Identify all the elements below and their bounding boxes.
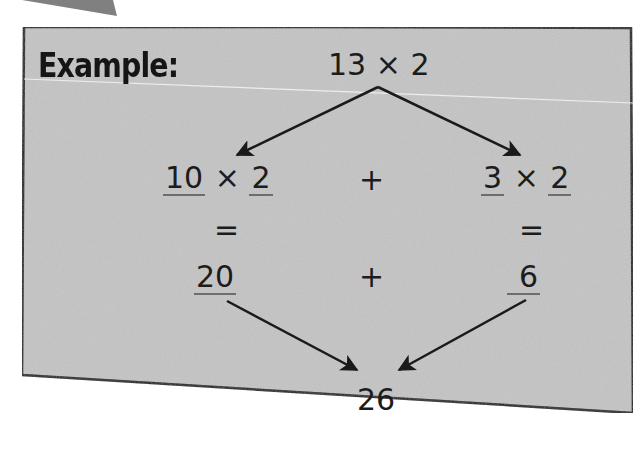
right-product: 6 [507, 262, 540, 295]
right-equals-sign: = [519, 215, 544, 245]
ones-value: 3 [481, 163, 504, 196]
left-equals-sign: = [214, 215, 239, 245]
example-card: Example: 13 × 2 10 × 2 + 3 × 2 = = 20 + … [0, 0, 633, 458]
example-title: Example: [38, 46, 178, 85]
left-product: 20 [194, 262, 236, 295]
diagram-canvas: Example: 13 × 2 10 × 2 + 3 × 2 = = 20 + … [0, 0, 633, 458]
problem-expression: 13 × 2 [328, 50, 429, 80]
left-branch-expression: 10 × 2 [163, 163, 273, 196]
right-times-sign: × [514, 160, 539, 195]
tens-value: 10 [163, 163, 205, 196]
plus-sign-bottom: + [359, 262, 384, 292]
final-result: 26 [357, 385, 395, 415]
right-multiplier: 2 [548, 163, 571, 196]
right-branch-expression: 3 × 2 [481, 163, 571, 196]
left-multiplier: 2 [249, 163, 272, 196]
plus-sign-top: + [359, 165, 384, 195]
left-times-sign: × [215, 160, 240, 195]
